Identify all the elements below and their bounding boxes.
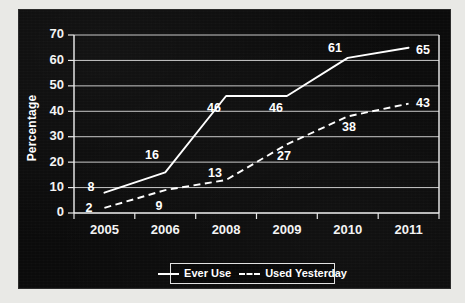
- y-tick-label-50: 50: [50, 77, 64, 92]
- y-axis-title: Percentage: [25, 95, 39, 162]
- line-chart: 70 60 50 40 30 20 10 0 Percentage: [19, 10, 451, 289]
- legend-item-used-yesterday: Used Yesterday: [239, 268, 347, 279]
- x-tick-label-2010: 2010: [333, 222, 362, 237]
- data-label-ever-use-2008: 46: [207, 101, 221, 115]
- data-labels-used-yesterday: 2 9 13 27 38 43: [86, 96, 430, 215]
- x-tick-label-2005: 2005: [90, 222, 119, 237]
- x-tick-label-2009: 2009: [272, 222, 301, 237]
- x-tick-labels: 2005 2006 2008 2009 2010 2011: [90, 222, 423, 237]
- data-label-ever-use-2010: 61: [328, 41, 342, 55]
- y-tick-label-70: 70: [50, 26, 64, 41]
- chart-legend: Ever Use Used Yesterday: [170, 263, 335, 284]
- y-tick-label-30: 30: [50, 128, 64, 143]
- data-label-used-yesterday-2010: 38: [342, 120, 356, 134]
- x-tick-label-2011: 2011: [394, 222, 422, 237]
- y-tick-label-10: 10: [50, 179, 64, 194]
- data-label-used-yesterday-2008: 13: [208, 166, 222, 180]
- data-label-ever-use-2005: 8: [88, 180, 95, 194]
- axes: [74, 35, 439, 213]
- x-tick-marks: [74, 213, 439, 219]
- data-label-used-yesterday-2009: 27: [277, 149, 291, 163]
- legend-label-ever-use: Ever Use: [184, 268, 231, 279]
- legend-item-ever-use: Ever Use: [158, 268, 231, 279]
- page-frame: 70 60 50 40 30 20 10 0 Percentage: [0, 0, 465, 303]
- x-tick-label-2008: 2008: [212, 222, 241, 237]
- series-line-ever-use: [104, 48, 408, 193]
- data-label-used-yesterday-2005: 2: [86, 201, 93, 215]
- data-label-ever-use-2009: 46: [269, 101, 283, 115]
- gridlines: [74, 35, 439, 188]
- x-tick-label-2006: 2006: [151, 222, 180, 237]
- data-label-used-yesterday-2011: 43: [416, 96, 430, 110]
- y-tick-marks: [68, 35, 74, 213]
- legend-label-used-yesterday: Used Yesterday: [265, 268, 347, 279]
- data-label-ever-use-2006: 16: [145, 148, 159, 162]
- data-label-used-yesterday-2006: 9: [156, 199, 163, 213]
- y-tick-labels: 70 60 50 40 30 20 10 0: [50, 26, 64, 219]
- data-label-ever-use-2011: 65: [416, 43, 430, 57]
- y-tick-label-60: 60: [50, 52, 64, 67]
- y-tick-label-20: 20: [50, 154, 64, 169]
- data-labels-ever-use: 8 16 46 46 61 65: [88, 41, 430, 194]
- legend-dashed-line-icon: [239, 273, 260, 275]
- y-tick-label-0: 0: [57, 204, 64, 219]
- chart-plate: 70 60 50 40 30 20 10 0 Percentage: [18, 9, 451, 289]
- legend-solid-line-icon: [158, 273, 179, 275]
- y-tick-label-40: 40: [50, 103, 64, 118]
